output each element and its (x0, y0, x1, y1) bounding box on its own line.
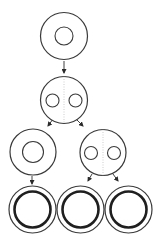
cell-1 (41, 13, 88, 60)
cell-membrane-circle (105, 186, 152, 233)
cell-membrane-circle (10, 129, 56, 175)
cell-4a (9, 186, 56, 233)
cell-membrane-circle (57, 186, 104, 233)
nodes-layer (9, 13, 152, 234)
cell-3b (80, 130, 126, 176)
cell-4b (57, 186, 104, 233)
cell-membrane-circle (41, 13, 88, 60)
arrow-cell-3b-to-cell-4b (88, 174, 92, 181)
cell-membrane-circle (9, 186, 56, 233)
cell-4c (105, 186, 152, 233)
arrow-cell-3b-to-cell-4c (113, 174, 118, 181)
cell-3a (10, 129, 56, 175)
cell-division-diagram (0, 0, 161, 243)
cell-2 (41, 77, 88, 124)
